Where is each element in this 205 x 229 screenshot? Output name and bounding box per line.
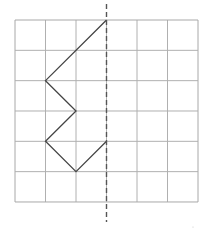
diagram-canvas <box>0 0 205 229</box>
speck-mark <box>192 226 193 227</box>
symmetry-diagram <box>0 0 205 229</box>
